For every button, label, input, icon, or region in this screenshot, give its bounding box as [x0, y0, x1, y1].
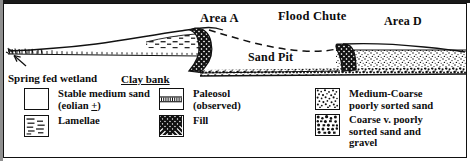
legend-item-medium-coarse-sand: Medium-Coarse poorly sorted sand [315, 88, 433, 111]
legend-line-1: Paleosol [193, 88, 241, 100]
legend-line-2: poorly sorted sand [349, 100, 433, 112]
legend-item-label: Fill [193, 115, 208, 127]
legend-item-label: Stable medium sand (eolian +) [58, 88, 150, 111]
label-flood-chute: Flood Chute [278, 10, 347, 23]
legend-item-lamellae: Lamellae [24, 115, 100, 137]
legend-item-coarse-sand-gravel: Coarse v. poorly sorted sand and gravel [315, 114, 423, 149]
legend-item-label: Lamellae [58, 115, 100, 127]
area-a-crest [202, 28, 223, 30]
swatch-medium-coarse-sand-icon [315, 88, 340, 110]
legend-line-1: Medium-Coarse [349, 88, 433, 100]
legend: Stable medium sand (eolian +) Lamel [4, 86, 466, 157]
legend-line-2: (eolian +) [58, 100, 150, 112]
legend-line-1: Stable medium sand [58, 88, 150, 100]
legend-item-label: Paleosol (observed) [193, 88, 241, 111]
label-spring-fed-wetland: Spring fed wetland [8, 73, 97, 84]
label-sand-pit: Sand Pit [248, 51, 293, 63]
legend-line-1: Fill [193, 115, 208, 127]
flood-chute-dashed-surface [209, 30, 342, 51]
legend-item-label: Coarse v. poorly sorted sand and gravel [349, 114, 423, 149]
swatch-coarse-sand-gravel-icon [315, 114, 340, 136]
figure-root: Area A Flood Chute Area D Sand Pit Sprin… [0, 0, 470, 161]
wetland-water-table-line [8, 54, 200, 56]
legend-line-1: Lamellae [58, 115, 100, 127]
legend-line-3: gravel [349, 137, 423, 149]
swatch-blank-icon [24, 88, 49, 110]
legend-item-paleosol: Paleosol (observed) [159, 88, 241, 111]
legend-line-1: Coarse v. poorly [349, 114, 423, 126]
label-clay-bank: Clay bank [121, 74, 170, 85]
legend-line-2: sorted sand and [349, 126, 423, 138]
label-area-a: Area A [200, 12, 239, 25]
spring-arrow [14, 56, 26, 67]
legend-item-fill: Fill [159, 115, 208, 137]
cross-section-diagram: Area A Flood Chute Area D Sand Pit Sprin… [4, 4, 466, 86]
swatch-fill-icon [159, 115, 184, 137]
legend-item-label: Medium-Coarse poorly sorted sand [349, 88, 433, 111]
swatch-lamellae-icon [24, 115, 49, 137]
label-area-d: Area D [384, 15, 422, 27]
legend-item-stable-medium-sand: Stable medium sand (eolian +) [24, 88, 150, 111]
legend-line-2: (observed) [193, 100, 241, 112]
swatch-paleosol-icon [159, 88, 184, 110]
